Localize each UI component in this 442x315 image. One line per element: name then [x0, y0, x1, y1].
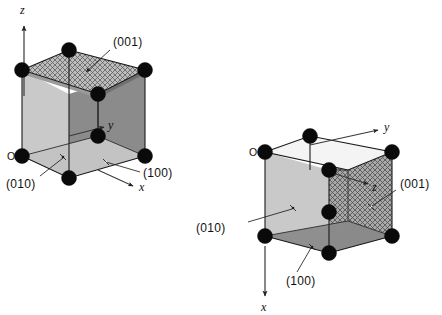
lattice-node	[258, 145, 273, 160]
right-y-axis-label: y	[383, 120, 390, 134]
left-y-axis-label: y	[107, 118, 114, 132]
right-plane-100-label: (100)	[286, 274, 316, 288]
left-plane-100-label: (100)	[143, 166, 173, 180]
right-x-axis-label: x	[260, 300, 267, 314]
lattice-node	[91, 87, 106, 102]
lattice-node	[385, 145, 400, 160]
lattice-node	[385, 229, 400, 244]
lattice-node	[15, 149, 30, 164]
right-plane-100-leader	[297, 248, 311, 272]
lattice-node	[15, 63, 30, 78]
lattice-node	[62, 43, 77, 58]
left-plane-100-leader	[106, 162, 140, 172]
left-cell-faces	[22, 50, 145, 178]
lattice-node	[303, 129, 318, 144]
left-x-axis-line	[98, 170, 133, 186]
lattice-node	[62, 171, 77, 186]
lattice-node	[322, 205, 337, 220]
left-unit-cell-diagram: z y x O (001) (010) (100)	[6, 3, 173, 194]
left-plane-010-label: (010)	[6, 177, 36, 191]
right-origin-label: O	[249, 146, 257, 158]
left-origin-label: O	[7, 150, 15, 162]
lattice-node	[138, 149, 153, 164]
lattice-node	[91, 129, 106, 144]
right-plane-001-label: (001)	[400, 177, 430, 191]
lattice-node	[258, 229, 273, 244]
figure-root: z y x O (001) (010) (100)	[0, 0, 442, 315]
lattice-node	[138, 63, 153, 78]
lattice-node	[322, 163, 337, 178]
left-x-axis-label: x	[138, 180, 145, 194]
right-unit-cell-diagram: y z x O (001) (010) (100)	[196, 120, 430, 314]
right-plane-010-label: (010)	[196, 221, 226, 235]
left-z-axis-label: z	[19, 3, 25, 17]
lattice-node	[322, 246, 337, 261]
right-z-axis-label: z	[371, 180, 377, 194]
left-plane-001-label: (001)	[113, 35, 143, 49]
crystal-unit-cell-figure: z y x O (001) (010) (100)	[0, 0, 442, 315]
